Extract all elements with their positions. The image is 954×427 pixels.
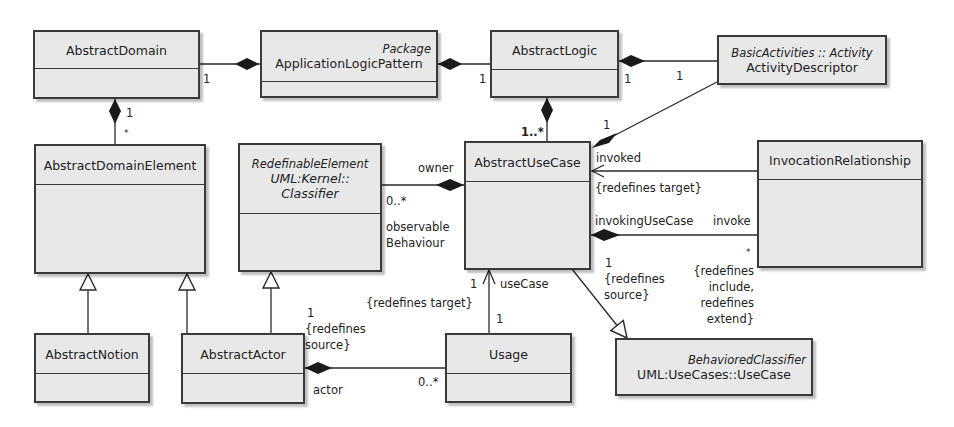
class-classifier[interactable]: RedefinableElement UML:Kernel:: Classifi… — [238, 143, 382, 272]
class-name: InvocationRelationship — [769, 153, 911, 168]
constraint-label: source} — [305, 338, 351, 352]
constraint-label: {redefines target} — [595, 181, 702, 195]
class-abstract-use-case[interactable]: AbstractUseCase — [464, 141, 591, 270]
class-name: ActivityDescriptor — [746, 60, 858, 75]
composition-diamond-icon — [592, 133, 617, 148]
composition-diamond-icon — [541, 98, 553, 123]
constraint-label: {redefines target} — [366, 296, 473, 310]
class-abstract-logic[interactable]: AbstractLogic — [490, 30, 619, 98]
multiplicity-label: 1 — [203, 72, 210, 86]
class-name: Usage — [489, 347, 528, 362]
multiplicity-label: 1 — [479, 72, 486, 86]
multiplicity-label: 0..* — [386, 194, 406, 208]
class-abstract-actor[interactable]: AbstractActor — [181, 333, 305, 404]
multiplicity-label: 1 — [624, 72, 631, 86]
class-name-line2: Classifier — [281, 186, 338, 201]
role-label-owner: owner — [418, 161, 454, 175]
class-name: AbstractLogic — [512, 43, 597, 58]
class-name: AbstractNotion — [45, 347, 138, 362]
multiplicity-label: 1..* — [521, 125, 544, 139]
class-invocation-relationship[interactable]: InvocationRelationship — [757, 140, 923, 268]
class-name: AbstractActor — [200, 347, 285, 362]
constraint-label: include, — [688, 280, 754, 294]
class-stereotype: RedefinableElement — [252, 157, 368, 171]
composition-diamond-icon — [109, 99, 121, 124]
constraint-label: {redefines — [604, 272, 665, 286]
class-abstract-notion[interactable]: AbstractNotion — [34, 333, 150, 403]
role-label: observable — [386, 220, 450, 234]
multiplicity-label: 1 — [676, 69, 683, 83]
class-name-line1: UML:Kernel:: — [270, 171, 349, 186]
composition-diamond-icon — [591, 229, 620, 241]
role-label-invoked: invoked — [596, 151, 641, 165]
composition-diamond-icon — [438, 58, 462, 70]
multiplicity-label: 1 — [603, 118, 610, 132]
role-label-invoke: invoke — [713, 214, 751, 228]
class-abstract-domain[interactable]: AbstractDomain — [33, 30, 200, 99]
class-name: AbstractDomainElement — [44, 158, 197, 173]
composition-diamond-icon — [619, 55, 645, 67]
class-name: AbstractUseCase — [474, 155, 580, 170]
composition-diamond-icon — [436, 179, 464, 191]
role-label: Behaviour — [386, 236, 444, 250]
composition-diamond-icon — [235, 58, 259, 70]
multiplicity-label: 1 — [496, 312, 503, 326]
class-application-logic-pattern[interactable]: Package ApplicationLogicPattern — [260, 30, 438, 98]
multiplicity-label: * — [746, 245, 751, 259]
multiplicity-label: 1 — [605, 256, 612, 270]
role-label-use-case: useCase — [500, 277, 549, 291]
multiplicity-label: 0..* — [418, 375, 438, 389]
class-stereotype: Package — [383, 42, 436, 56]
class-behaviored-classifier[interactable]: BehavioredClassifier UML:UseCases::UseCa… — [615, 338, 813, 396]
class-activity-descriptor[interactable]: BasicActivities :: Activity ActivityDesc… — [717, 35, 887, 85]
uml-diagram-canvas: AbstractDomain Package ApplicationLogicP… — [0, 0, 954, 427]
role-label-invoking-use-case: invokingUseCase — [595, 214, 693, 228]
multiplicity-label: 1 — [126, 106, 133, 120]
class-usage[interactable]: Usage — [445, 333, 572, 403]
class-name: ApplicationLogicPattern — [275, 56, 423, 71]
class-name: AbstractDomain — [66, 43, 167, 58]
constraint-label: {redefines — [688, 264, 754, 278]
constraint-label: extend} — [688, 312, 754, 326]
class-stereotype: BehavioredClassifier — [688, 353, 811, 367]
constraint-label: redefines — [688, 296, 754, 310]
multiplicity-label: * — [124, 126, 129, 140]
constraint-label: source} — [604, 288, 650, 302]
class-name: UML:UseCases::UseCase — [637, 367, 791, 382]
role-label-actor: actor — [313, 383, 343, 397]
composition-diamond-icon — [305, 362, 332, 374]
multiplicity-label: 1 — [470, 277, 477, 291]
multiplicity-label: 1 — [307, 306, 314, 320]
constraint-label: {redefines — [305, 322, 366, 336]
class-stereotype: BasicActivities :: Activity — [731, 46, 872, 60]
class-abstract-domain-element[interactable]: AbstractDomainElement — [34, 144, 206, 274]
